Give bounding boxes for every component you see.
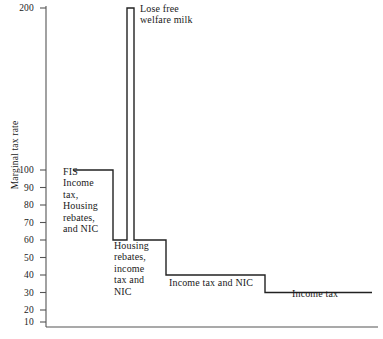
annotation-lose-free-welfare-milk: Lose free welfare milk	[140, 3, 235, 26]
annotation-income-tax-and-nic: Income tax and NIC	[169, 277, 279, 288]
marginal-tax-rate-chart: Marginal tax rate 200 100 90 80 70 60 50…	[0, 0, 383, 339]
annotation-income-tax: Income tax	[292, 288, 372, 299]
annotation-fis-income-tax: FIS Income tax, Housing rebates, and NIC	[63, 166, 117, 234]
y-axis-ticks	[40, 8, 46, 322]
annotation-housing-rebates: Housing rebates, income tax and NIC	[114, 240, 166, 297]
